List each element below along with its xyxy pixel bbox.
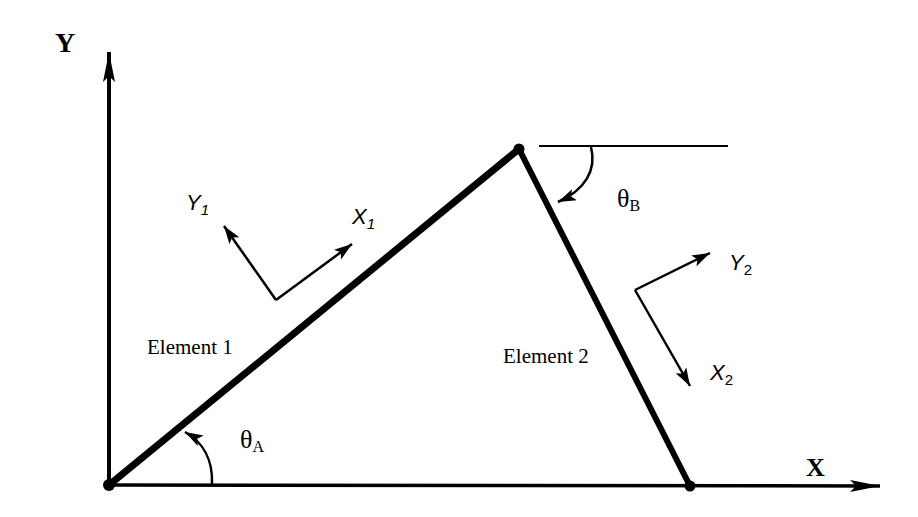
element-1-label: Element 1 — [147, 335, 233, 359]
theta-a-label: θA — [240, 425, 264, 455]
element-2-label: Element 2 — [503, 344, 589, 368]
global-x-axis — [109, 485, 880, 486]
theta-a-arc-arrow — [185, 432, 212, 484]
local-y2-label: Y2 — [729, 250, 752, 278]
local-x1-label: X1 — [351, 204, 375, 232]
theta-b-arc-arrow — [558, 147, 593, 202]
local-axes-1 — [224, 226, 352, 300]
local-axes-2 — [635, 253, 710, 386]
local-y1-label: Y1 — [186, 190, 209, 218]
apex-node — [514, 144, 525, 155]
truss-diagram: Y X Y1 X1 Y2 X2 Element 1 Element 2 θA θ… — [0, 0, 918, 517]
origin-node — [103, 479, 115, 491]
element-1-bar — [109, 149, 519, 485]
global-x-label: X — [806, 453, 825, 482]
right-base-node — [685, 481, 696, 492]
theta-b-label: θB — [617, 184, 640, 214]
element-2-bar — [519, 149, 690, 486]
global-y-label: Y — [55, 27, 75, 58]
local-x2-label: X2 — [709, 360, 733, 388]
